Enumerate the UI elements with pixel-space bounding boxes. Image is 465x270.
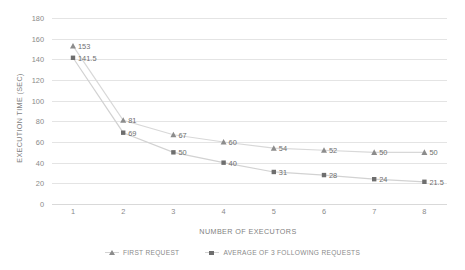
gridline: [52, 101, 447, 102]
data-point-label: 28: [329, 171, 337, 180]
x-tick-label: 1: [58, 207, 88, 216]
data-point-label: 141.5: [78, 53, 97, 62]
square-marker-icon: [205, 249, 219, 256]
y-tick-label: 60: [0, 138, 44, 147]
y-tick-label: 20: [0, 179, 44, 188]
y-tick-label: 140: [0, 55, 44, 64]
data-point-label: 50: [178, 148, 186, 157]
y-tick-label: 0: [0, 200, 44, 209]
legend-item-average-following-requests[interactable]: AVERAGE OF 3 FOLLOWING REQUESTS: [205, 249, 360, 256]
x-tick-label: 2: [108, 207, 138, 216]
x-tick-label: 4: [209, 207, 239, 216]
gridline: [52, 18, 447, 19]
y-axis-tick-labels: 020406080100120140160180: [0, 18, 48, 204]
legend-label: AVERAGE OF 3 FOLLOWING REQUESTS: [223, 249, 360, 256]
data-point-label: 54: [279, 144, 287, 153]
data-point-label: 40: [229, 158, 237, 167]
data-point-label: 50: [429, 148, 437, 157]
legend-item-first-request[interactable]: FIRST REQUEST: [105, 249, 180, 256]
x-tick-label: 6: [309, 207, 339, 216]
x-axis-title: NUMBER OF EXECUTORS: [48, 227, 448, 236]
gridline: [52, 59, 447, 60]
data-point-label: 31: [279, 167, 287, 176]
x-axis-tick-labels: 12345678: [52, 207, 447, 221]
y-tick-label: 180: [0, 14, 44, 23]
x-tick-label: 3: [158, 207, 188, 216]
data-point-label: 67: [178, 130, 186, 139]
y-tick-label: 100: [0, 96, 44, 105]
data-point-label: 52: [329, 146, 337, 155]
chart-container: EXECUTION TIME (SEC) 0204060801001201401…: [0, 0, 465, 270]
triangle-marker-icon: [105, 249, 119, 256]
gridline: [52, 204, 447, 205]
plot-area: [52, 18, 447, 204]
data-point-label: 50: [379, 148, 387, 157]
x-tick-label: 7: [359, 207, 389, 216]
gridline: [52, 80, 447, 81]
data-point-label: 60: [229, 138, 237, 147]
x-tick-label: 5: [259, 207, 289, 216]
gridline: [52, 121, 447, 122]
data-point-label: 24: [379, 175, 387, 184]
data-point-label: 81: [128, 116, 136, 125]
gridline: [52, 142, 447, 143]
y-tick-label: 120: [0, 76, 44, 85]
gridline: [52, 163, 447, 164]
data-point-label: 21.5: [429, 177, 443, 186]
legend-label: FIRST REQUEST: [123, 249, 180, 256]
x-tick-label: 8: [409, 207, 439, 216]
y-tick-label: 40: [0, 158, 44, 167]
y-tick-label: 80: [0, 117, 44, 126]
gridline: [52, 183, 447, 184]
data-point-label: 69: [128, 128, 136, 137]
gridline: [52, 39, 447, 40]
chart-legend: FIRST REQUEST AVERAGE OF 3 FOLLOWING REQ…: [0, 249, 465, 256]
data-point-label: 153: [78, 41, 90, 50]
y-tick-label: 160: [0, 34, 44, 43]
